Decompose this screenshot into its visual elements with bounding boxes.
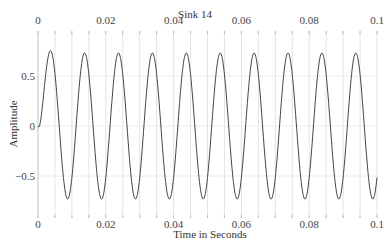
y-axis-label: Amplitude [7,89,19,159]
chart-title: Sink 14 [0,8,390,20]
chart-canvas: 000.020.020.040.040.060.060.080.080.10.1… [0,0,390,248]
y-tick-label: 0.5 [21,70,35,82]
y-tick-label: −0.5 [15,170,35,182]
y-tick-label: 0 [30,120,36,132]
x-axis-label: Time in Seconds [0,228,390,240]
